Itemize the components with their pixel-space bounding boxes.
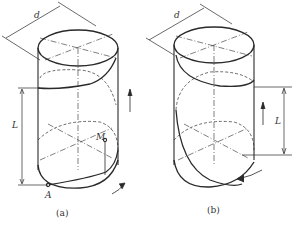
panel-a-length-dimension xyxy=(18,88,48,185)
panel-a-cylinder xyxy=(38,30,118,188)
panel-a-label-m: M xyxy=(95,132,106,142)
panel-a-motion-arrows xyxy=(112,89,132,194)
panel-a-caption: (a) xyxy=(56,208,68,218)
panel-a-label-d: d xyxy=(34,10,40,20)
panel-b-label-d: d xyxy=(174,10,180,20)
panel-b-motion-arrows xyxy=(237,102,265,182)
panel-b-length-dimension xyxy=(242,87,292,155)
panel-b-cylinder xyxy=(174,27,254,187)
figure-canvas: d L A M (a) d L (b) xyxy=(0,0,292,230)
panel-a-diameter-dimension xyxy=(2,2,96,60)
panel-a-label-a: A xyxy=(44,190,52,200)
panel-b-caption: (b) xyxy=(207,205,220,215)
panel-b-label-l: L xyxy=(274,116,281,126)
panel-a-label-l: L xyxy=(11,120,18,130)
